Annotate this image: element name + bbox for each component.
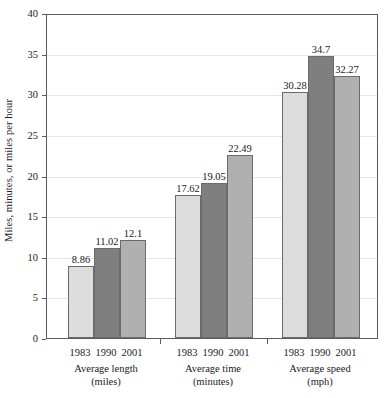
bar (201, 183, 227, 338)
bar (68, 266, 94, 338)
x-tick-mark (267, 339, 268, 344)
x-group-label: Average length(miles) (46, 363, 166, 387)
x-group-label-unit: (minutes) (153, 376, 273, 387)
y-tick-label: 35 (2, 50, 38, 61)
bar (120, 240, 146, 338)
bar (282, 92, 308, 338)
x-tick-label-year: 2001 (219, 347, 259, 358)
y-tick-label: 25 (2, 131, 38, 142)
x-group-label-unit: (mph) (260, 376, 380, 387)
y-tick-label: 5 (2, 293, 38, 304)
bar (94, 248, 120, 338)
bar (308, 56, 334, 338)
bar-value-label: 32.27 (327, 65, 367, 76)
x-group-label: Average speed(mph) (260, 363, 380, 387)
y-tick-label: 20 (2, 172, 38, 183)
x-group-label-name: Average length (74, 363, 138, 374)
y-tick-label: 0 (2, 334, 38, 345)
bar-chart-figure: Miles, minutes, or miles per hour 051015… (0, 0, 390, 398)
x-tick-label-year: 2001 (326, 347, 366, 358)
y-tick-label: 30 (2, 90, 38, 101)
x-group-label-name: Average time (185, 363, 241, 374)
x-tick-mark (160, 339, 161, 344)
bar-value-label: 22.49 (220, 144, 260, 155)
bar (227, 155, 253, 338)
bar (175, 195, 201, 338)
bar-value-label: 34.7 (301, 45, 341, 56)
y-axis-ticks: 0510152025303540 (0, 0, 46, 398)
bar (334, 76, 360, 338)
y-tick-label: 10 (2, 253, 38, 264)
plot-area: 8.8611.0212.117.6219.0522.4930.2834.732.… (46, 14, 378, 339)
y-tick-label: 15 (2, 212, 38, 223)
x-group-label-name: Average speed (289, 363, 350, 374)
x-axis: 198319902001Average length(miles)1983199… (46, 339, 378, 398)
x-group-label: Average time(minutes) (153, 363, 273, 387)
bar-value-label: 12.1 (113, 229, 153, 240)
y-tick-label: 40 (2, 9, 38, 20)
x-group-label-unit: (miles) (46, 376, 166, 387)
x-tick-label-year: 2001 (112, 347, 152, 358)
